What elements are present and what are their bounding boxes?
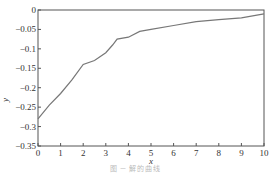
y-tick-label: −0.1 [20, 44, 36, 54]
x-tick-label: 1 [58, 148, 63, 158]
x-tick-label: 7 [194, 148, 199, 158]
x-tick-label: 3 [104, 148, 109, 158]
x-tick-label: 9 [239, 148, 244, 158]
y-axis-label: y [0, 98, 10, 103]
x-tick-label: 4 [126, 148, 131, 158]
data-series [38, 14, 264, 119]
figure-caption: 图 ─ 解的曲线 [0, 163, 271, 173]
plot-frame [38, 10, 264, 146]
x-tick-label: 2 [81, 148, 86, 158]
y-tick-label: 0 [32, 5, 37, 15]
x-tick-label: 0 [36, 148, 41, 158]
y-tick-label: −0.3 [20, 122, 37, 132]
x-tick-label: 6 [171, 148, 176, 158]
plot-axes [38, 10, 264, 146]
y-tick-label: −0.05 [15, 24, 36, 34]
y-tick-label: −0.35 [15, 141, 36, 151]
line-chart: 0123456789100−0.05−0.1−0.15−0.2−0.25−0.3… [0, 0, 271, 179]
axis-ticks: 0123456789100−0.05−0.1−0.15−0.2−0.25−0.3… [15, 5, 269, 158]
y-tick-label: −0.15 [15, 63, 36, 73]
y-tick-label: −0.2 [20, 83, 36, 93]
y-tick-label: −0.25 [15, 102, 36, 112]
x-tick-label: 10 [260, 148, 270, 158]
x-tick-label: 8 [217, 148, 222, 158]
series-line [38, 14, 264, 119]
